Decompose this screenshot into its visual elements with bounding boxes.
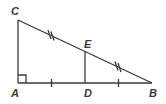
triangle-diagram: C E A D B xyxy=(0,0,166,104)
label-b: B xyxy=(149,87,157,99)
label-c: C xyxy=(11,5,20,17)
label-d: D xyxy=(84,87,92,99)
label-e: E xyxy=(84,38,92,50)
right-angle-marker xyxy=(18,75,26,83)
label-a: A xyxy=(10,87,19,99)
